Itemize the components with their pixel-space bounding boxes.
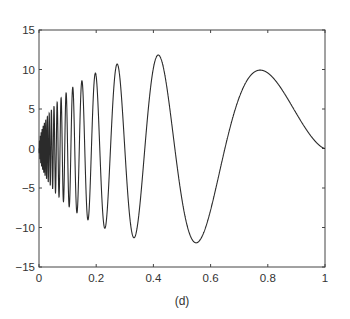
axis-ticks	[39, 30, 325, 267]
y-tick-label: −5	[22, 182, 35, 194]
chart: −15−10−5051015 00.20.40.60.81 (d)	[0, 0, 350, 319]
y-tick-label: 5	[29, 103, 35, 115]
x-tick-label: 0.4	[145, 272, 162, 284]
signal-line	[39, 55, 325, 243]
y-tick-label: −10	[15, 222, 35, 234]
figure-caption: (d)	[175, 294, 190, 308]
x-tick-label: 0.8	[260, 272, 276, 284]
x-tick-label: 0	[36, 272, 42, 284]
x-axis-tick-labels: 00.20.40.60.81	[36, 272, 328, 284]
x-tick-label: 1	[322, 272, 328, 284]
x-tick-label: 0.2	[88, 272, 104, 284]
plot-area	[39, 30, 325, 267]
y-tick-label: 10	[22, 64, 35, 76]
y-tick-label: 0	[29, 143, 35, 155]
y-tick-label: −15	[15, 261, 35, 273]
plot-border	[39, 30, 325, 267]
x-tick-label: 0.6	[203, 272, 219, 284]
y-tick-label: 15	[22, 24, 35, 36]
y-axis-tick-labels: −15−10−5051015	[15, 24, 35, 273]
